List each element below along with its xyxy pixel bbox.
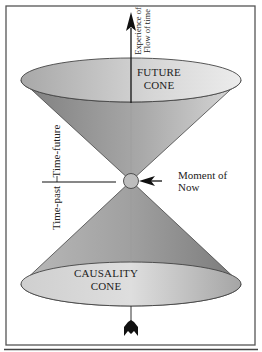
time-past-label: Time-past (50, 186, 62, 230)
time-future-label: Time-future (50, 125, 62, 178)
causality-cone-label-line2: CONE (91, 280, 122, 292)
time-axis-label-line2: Flow of time (142, 9, 152, 53)
light-cone-diagram: FUTURE CONE CAUSALITY CONE Experience of… (0, 0, 262, 352)
moment-of-now-circle (124, 174, 139, 189)
moment-of-now-label-line1: Moment of (178, 169, 228, 181)
moment-of-now-label-line2: Now (178, 181, 199, 193)
future-cone-label-line1: FUTURE (137, 66, 181, 78)
causality-cone-label-line1: CAUSALITY (74, 267, 138, 279)
future-cone-label-line2: CONE (144, 79, 175, 91)
